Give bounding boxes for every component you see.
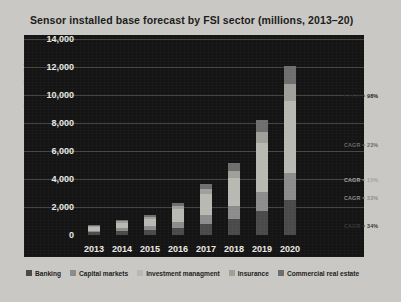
- legend-item[interactable]: Banking: [26, 270, 61, 277]
- y-axis-tick-label: 6,000: [28, 146, 74, 156]
- y-axis-tick-label: 12,000: [28, 62, 74, 72]
- bar-segment[interactable]: [228, 219, 240, 235]
- x-axis-tick-label: 2015: [140, 244, 160, 254]
- y-axis-tick-label: 10,000: [28, 90, 74, 100]
- bar-segment[interactable]: [144, 219, 156, 226]
- y-axis-tick-label: 4,000: [28, 174, 74, 184]
- bars-area: [80, 39, 304, 235]
- legend-swatch-icon: [70, 270, 76, 276]
- x-axis-tick-label: 2014: [112, 244, 132, 254]
- legend-label: Capital markets: [79, 270, 128, 277]
- plot-panel: 02,0004,0006,0008,00010,00012,00014,000 …: [24, 35, 364, 257]
- legend-swatch-icon: [278, 270, 284, 276]
- bar-group[interactable]: [172, 203, 184, 235]
- bar-segment[interactable]: [200, 215, 212, 224]
- legend-swatch-icon: [229, 270, 235, 276]
- bar-segment[interactable]: [172, 228, 184, 235]
- y-axis-tick-label: 8,000: [28, 118, 74, 128]
- bar-segment[interactable]: [256, 192, 268, 211]
- bar-segment[interactable]: [228, 178, 240, 206]
- bar-segment[interactable]: [200, 194, 212, 214]
- bar-group[interactable]: [284, 66, 296, 235]
- x-axis-tick-label: 2016: [168, 244, 188, 254]
- bar-segment[interactable]: [256, 132, 268, 143]
- bar-group[interactable]: [228, 163, 240, 235]
- bar-segment[interactable]: [200, 224, 212, 235]
- x-axis-tick-label: 2013: [84, 244, 104, 254]
- cagr-annotation: CAGR = 34%: [344, 223, 378, 229]
- cagr-annotation: CAGR = 33%: [344, 195, 378, 201]
- y-axis-tick-label: 2,000: [28, 202, 74, 212]
- bar-segment[interactable]: [284, 84, 296, 101]
- x-axis-tick-label: 2017: [196, 244, 216, 254]
- bar-segment[interactable]: [284, 66, 296, 84]
- bar-segment[interactable]: [284, 101, 296, 174]
- bar-segment[interactable]: [256, 143, 268, 192]
- bar-segment[interactable]: [284, 173, 296, 200]
- legend-label: Banking: [35, 270, 61, 277]
- legend-item[interactable]: Capital markets: [70, 270, 128, 277]
- y-axis-tick-label: 14,000: [28, 35, 74, 44]
- bar-segment[interactable]: [228, 206, 240, 219]
- bar-segment[interactable]: [284, 200, 296, 235]
- bar-group[interactable]: [200, 184, 212, 235]
- bar-group[interactable]: [88, 225, 100, 235]
- bar-segment[interactable]: [228, 171, 240, 178]
- legend-label: Insurance: [238, 270, 269, 277]
- legend-item[interactable]: Commercial real estate: [278, 270, 359, 277]
- bar-segment[interactable]: [256, 211, 268, 235]
- chart-screenshot: Sensor installed base forecast by FSI se…: [0, 0, 401, 302]
- cagr-annotation: CAGR = 98%: [344, 93, 378, 99]
- cagr-annotation: CAGR = 15%: [344, 177, 378, 183]
- y-axis-tick-label: 0: [28, 230, 74, 240]
- bar-segment[interactable]: [116, 231, 128, 235]
- x-axis-tick-label: 2020: [280, 244, 300, 254]
- bar-group[interactable]: [256, 120, 268, 235]
- chart-title: Sensor installed base forecast by FSI se…: [30, 14, 375, 26]
- cagr-annotation: CAGR = 23%: [344, 142, 378, 148]
- bar-segment[interactable]: [144, 230, 156, 235]
- legend-item[interactable]: Insurance: [229, 270, 269, 277]
- bar-segment[interactable]: [172, 209, 184, 222]
- bar-segment[interactable]: [228, 163, 240, 171]
- bar-segment[interactable]: [256, 120, 268, 132]
- x-axis-tick-label: 2019: [252, 244, 272, 254]
- legend-item[interactable]: Investment managment: [137, 270, 220, 277]
- legend-label: Investment managment: [146, 270, 220, 277]
- x-axis-tick-label: 2018: [224, 244, 244, 254]
- legend-swatch-icon: [26, 270, 32, 276]
- bar-segment[interactable]: [88, 232, 100, 235]
- legend-swatch-icon: [137, 270, 143, 276]
- chart-legend: BankingCapital marketsInvestment managme…: [26, 266, 374, 280]
- legend-label: Commercial real estate: [287, 270, 359, 277]
- bar-group[interactable]: [116, 220, 128, 235]
- bar-group[interactable]: [144, 215, 156, 235]
